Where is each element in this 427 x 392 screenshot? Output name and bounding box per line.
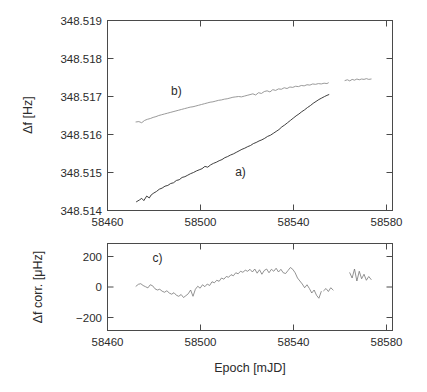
series-b-segment-0 <box>136 83 328 123</box>
bottom-panel-frame <box>108 244 393 331</box>
top-panel-frame <box>108 21 393 211</box>
bottom-xtick-label-1: 58500 <box>185 336 217 348</box>
bottom-ytick-label-0: −200 <box>76 312 102 324</box>
top-xtick-label-1: 58500 <box>185 216 217 228</box>
bottom-panel-x-ticks <box>108 244 387 331</box>
bottom-xtick-label-0: 58460 <box>92 336 124 348</box>
top-panel-y-ticks <box>108 21 393 211</box>
top-xtick-label-2: 58540 <box>278 216 310 228</box>
bottom-panel-ylabel: Δf corr. [μHz] <box>31 251 45 324</box>
series-c-segment-2 <box>350 269 371 281</box>
top-xtick-label-3: 58580 <box>371 216 403 228</box>
curve-label-a: a) <box>235 165 246 179</box>
curve-label-b: b) <box>171 84 182 98</box>
series-a-line <box>136 95 328 202</box>
bottom-panel-plot-area <box>136 268 371 299</box>
top-ytick-label-2: 348.516 <box>60 129 102 141</box>
series-c-segment-0 <box>136 268 321 299</box>
bottom-panel-y-ticks <box>108 257 393 318</box>
top-panel-ylabel: Δf [Hz] <box>21 96 35 134</box>
figure-xlabel: Epoch [mJD] <box>214 361 286 375</box>
series-b-segment-1 <box>345 79 371 81</box>
series-c-segment-1 <box>324 288 334 292</box>
bottom-ytick-label-2: 200 <box>83 251 102 263</box>
bottom-panel: 200 0 −200 58460 58500 58540 58580 Δf co… <box>31 244 402 349</box>
top-ytick-label-5: 348.519 <box>60 15 102 27</box>
bottom-xtick-label-2: 58540 <box>278 336 310 348</box>
top-ytick-label-0: 348.514 <box>60 205 102 217</box>
top-ytick-label-4: 348.518 <box>60 53 102 65</box>
figure-root: 348.519 348.518 348.517 348.516 348.515 … <box>0 0 427 392</box>
top-ytick-label-3: 348.517 <box>60 91 102 103</box>
top-panel: 348.519 348.518 348.517 348.516 348.515 … <box>21 15 402 229</box>
top-panel-x-ticks <box>108 21 387 211</box>
top-xtick-label-0: 58460 <box>92 216 124 228</box>
bottom-xtick-label-3: 58580 <box>371 336 403 348</box>
top-ytick-label-1: 348.515 <box>60 167 102 179</box>
bottom-ytick-label-1: 0 <box>96 281 102 293</box>
curve-label-c: c) <box>152 251 162 265</box>
